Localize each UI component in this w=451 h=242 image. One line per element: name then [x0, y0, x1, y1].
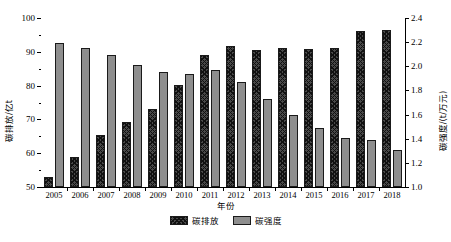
bar-carbon-intensity	[55, 43, 65, 187]
y-axis-left-tick-label: 60	[26, 149, 35, 158]
x-axis-tick-label: 2018	[379, 190, 405, 200]
bar-group	[249, 18, 275, 187]
y-axis-right-tick-label: 2.2	[411, 38, 422, 47]
y-axis-left-tick-label: 50	[26, 183, 35, 192]
bar-carbon-emission	[226, 46, 236, 187]
x-axis-tick-label: 2016	[327, 190, 353, 200]
y-axis-right-tick	[405, 115, 409, 116]
bar-carbon-intensity	[211, 70, 221, 187]
bar-carbon-intensity	[185, 74, 195, 187]
y-axis-right-tick	[405, 42, 409, 43]
x-axis-tick	[327, 187, 328, 191]
y-axis-left-tick-label: 80	[26, 81, 35, 90]
x-axis-tick	[119, 187, 120, 191]
bar-group	[301, 18, 327, 187]
bar-carbon-intensity	[159, 72, 169, 187]
bar-carbon-intensity	[367, 140, 377, 187]
bar-carbon-emission	[96, 135, 106, 187]
y-axis-left-title: 碳排放/亿t	[2, 86, 14, 156]
x-axis-tick	[93, 187, 94, 191]
bar-carbon-intensity	[133, 65, 143, 187]
bar-carbon-emission	[252, 50, 262, 187]
y-axis-right-tick-label: 1.0	[411, 183, 422, 192]
bar-carbon-emission	[330, 48, 340, 187]
x-axis-tick	[197, 187, 198, 191]
bar-carbon-intensity	[81, 48, 91, 187]
bar-group	[353, 18, 379, 187]
x-axis-tick	[379, 187, 380, 191]
x-axis-tick-label: 2006	[67, 190, 93, 200]
bar-carbon-intensity	[341, 138, 351, 187]
bar-group	[67, 18, 93, 187]
x-axis-tick-label: 2013	[249, 190, 275, 200]
y-axis-left-tick-label: 90	[26, 47, 35, 56]
bar-carbon-emission	[122, 122, 132, 187]
legend-swatch-carbon-emission	[170, 216, 188, 225]
y-axis-right-tick-label: 2.0	[411, 62, 422, 71]
bar-group	[93, 18, 119, 187]
y-axis-left-tick-label: 100	[22, 14, 36, 23]
y-axis-right-tick-label: 1.6	[411, 110, 422, 119]
x-axis-tick-label: 2011	[197, 190, 223, 200]
y-axis-left-tick-label: 70	[26, 115, 35, 124]
y-axis-right-tick	[405, 187, 409, 188]
x-axis-tick	[353, 187, 354, 191]
bar-carbon-emission	[148, 109, 158, 187]
y-axis-right-tick	[405, 163, 409, 164]
bar-group	[41, 18, 67, 187]
chart-container: 碳排放/亿t 碳强度/(t/万元) 年份 5060708090100 1.01.…	[0, 0, 451, 242]
y-axis-right-tick-label: 1.4	[411, 134, 422, 143]
y-axis-right-tick	[405, 18, 409, 19]
bar-group	[197, 18, 223, 187]
bar-group	[379, 18, 405, 187]
x-axis-tick	[275, 187, 276, 191]
x-axis-tick-label: 2012	[223, 190, 249, 200]
bar-group	[223, 18, 249, 187]
x-axis-title: 年份	[0, 199, 451, 211]
y-axis-right-tick-label: 1.8	[411, 86, 422, 95]
y-axis-right-tick-label: 2.4	[411, 14, 422, 23]
chart-legend: 碳排放碳强度	[0, 214, 451, 226]
x-axis-tick	[223, 187, 224, 191]
bar-group	[171, 18, 197, 187]
x-axis-tick	[145, 187, 146, 191]
y-axis-left-tick	[37, 187, 41, 188]
bar-group	[145, 18, 171, 187]
bar-carbon-emission	[278, 48, 288, 187]
x-axis-tick-label: 2005	[41, 190, 67, 200]
bar-group	[275, 18, 301, 187]
x-axis-tick	[67, 187, 68, 191]
plot-area: 5060708090100 1.01.21.41.61.82.02.22.4	[41, 18, 405, 187]
bar-carbon-emission	[304, 49, 314, 187]
bar-carbon-intensity	[263, 99, 273, 187]
x-axis-tick-label: 2010	[171, 190, 197, 200]
bar-carbon-intensity	[237, 82, 247, 187]
bar-carbon-intensity	[107, 55, 117, 187]
bar-carbon-intensity	[289, 115, 299, 187]
x-axis-tick	[171, 187, 172, 191]
x-axis-tick-label: 2015	[301, 190, 327, 200]
x-axis-tick-label: 2009	[145, 190, 171, 200]
bar-group	[119, 18, 145, 187]
y-axis-right-tick	[405, 90, 409, 91]
x-axis-tick-label: 2017	[353, 190, 379, 200]
bar-carbon-emission	[200, 55, 210, 187]
bar-carbon-emission	[382, 30, 392, 187]
x-axis-tick-label: 2014	[275, 190, 301, 200]
legend-label: 碳强度	[255, 214, 282, 226]
bar-carbon-emission	[70, 157, 80, 187]
x-axis-tick	[301, 187, 302, 191]
bar-carbon-emission	[174, 85, 184, 187]
y-axis-right-tick-label: 1.2	[411, 158, 422, 167]
bar-carbon-emission	[44, 177, 54, 187]
bar-carbon-intensity	[393, 150, 403, 187]
legend-item: 碳强度	[233, 214, 282, 226]
x-axis-tick-label: 2008	[119, 190, 145, 200]
y-axis-right-tick	[405, 66, 409, 67]
x-axis-tick-label: 2007	[93, 190, 119, 200]
legend-item: 碳排放	[170, 214, 219, 226]
bar-group	[327, 18, 353, 187]
bar-carbon-emission	[356, 31, 366, 187]
x-axis-tick	[249, 187, 250, 191]
legend-label: 碳排放	[192, 214, 219, 226]
